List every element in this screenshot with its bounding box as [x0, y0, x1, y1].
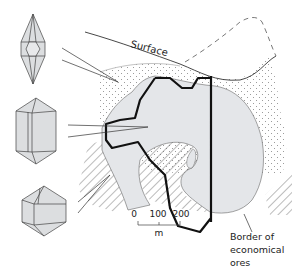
border-label-line2: economical [230, 244, 284, 255]
elongated-bipyramidal-crystal-icon [21, 14, 45, 84]
scale-tick-200: 200 [172, 209, 189, 219]
ore-deposit-diagram: Surface 0 100 200 m Border of economical… [0, 0, 297, 274]
scale-tick-100: 100 [149, 209, 166, 219]
prismatic-crystal-icon [16, 98, 56, 164]
scale-tick-0: 0 [131, 209, 137, 219]
short-bipyramidal-crystal-icon [22, 186, 66, 236]
border-label-line1: Border of [230, 231, 275, 242]
border-label-line3: ores [230, 257, 250, 268]
border-label-leader [244, 214, 252, 232]
former-surface-dashed [185, 18, 276, 63]
scale-unit: m [155, 228, 164, 238]
scale-bar: 0 100 200 m [131, 209, 190, 238]
surface-label: Surface [130, 38, 170, 58]
pointer-line-top-a [62, 48, 118, 82]
hatched-rock-right [265, 172, 292, 215]
